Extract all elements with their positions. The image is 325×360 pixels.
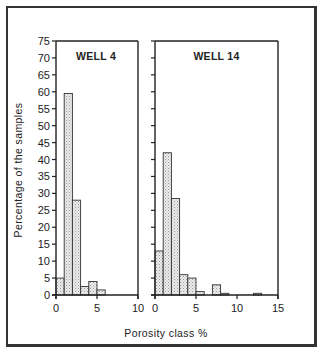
y-tick-label: 45 bbox=[38, 137, 50, 149]
y-tick-label: 0 bbox=[44, 289, 50, 301]
histogram-bar: 4-5: 5 bbox=[188, 278, 196, 295]
y-tick-label: 15 bbox=[38, 238, 50, 250]
x-tick-label: 0 bbox=[152, 302, 158, 314]
histogram-bar: 0-1: 13 bbox=[155, 251, 163, 295]
histogram-bar: 0-1: 5 bbox=[56, 278, 64, 295]
panel-well-14: 0-1: 131-2: 422-3: 28.53-4: 64-5: 55-6: … bbox=[151, 41, 284, 314]
y-tick-label: 70 bbox=[38, 52, 50, 64]
y-tick-label: 20 bbox=[38, 221, 50, 233]
histogram-bar: 2-3: 28.5 bbox=[171, 198, 179, 295]
histogram-bar: 3-4: 2.5 bbox=[81, 287, 89, 295]
panel-title: WELL 4 bbox=[76, 50, 116, 62]
panel-title: WELL 14 bbox=[193, 50, 239, 62]
y-tick-label: 55 bbox=[38, 103, 50, 115]
y-tick-label: 35 bbox=[38, 170, 50, 182]
y-tick-label: 40 bbox=[38, 154, 50, 166]
x-tick-label: 15 bbox=[272, 302, 284, 314]
y-tick-label: 5 bbox=[44, 272, 50, 284]
histogram-bar: 1-2: 42 bbox=[163, 153, 171, 295]
x-tick-label: 10 bbox=[231, 302, 243, 314]
x-axis-title: Porosity class % bbox=[124, 327, 207, 339]
histogram-bar: 7-8: 3 bbox=[212, 285, 220, 295]
x-tick-label: 5 bbox=[94, 302, 100, 314]
histogram-bar: 4-5: 4 bbox=[89, 281, 97, 295]
x-tick-label: 0 bbox=[53, 302, 59, 314]
histogram-figure: 0-1: 51-2: 59.52-3: 283-4: 2.54-5: 45-6:… bbox=[0, 0, 325, 360]
x-tick-label: 5 bbox=[193, 302, 199, 314]
x-tick-label: 10 bbox=[132, 302, 144, 314]
y-tick-label: 60 bbox=[38, 86, 50, 98]
y-axis-title: Percentage of the samples bbox=[12, 103, 24, 238]
y-tick-label: 50 bbox=[38, 120, 50, 132]
y-tick-label: 75 bbox=[38, 35, 50, 47]
histogram-bar: 3-4: 6 bbox=[180, 275, 188, 295]
y-tick-label: 10 bbox=[38, 255, 50, 267]
y-tick-label: 65 bbox=[38, 69, 50, 81]
histogram-bar: 2-3: 28 bbox=[72, 200, 80, 295]
y-tick-label: 30 bbox=[38, 187, 50, 199]
panel-well-4: 0-1: 51-2: 59.52-3: 283-4: 2.54-5: 45-6:… bbox=[38, 35, 144, 314]
y-tick-label: 25 bbox=[38, 204, 50, 216]
histogram-bar: 1-2: 59.5 bbox=[64, 93, 72, 295]
